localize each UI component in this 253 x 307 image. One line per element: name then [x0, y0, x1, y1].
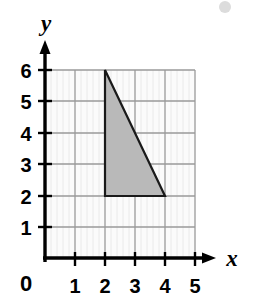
x-axis-arrowhead — [202, 253, 216, 264]
x-tick-label-3: 3 — [129, 275, 140, 297]
y-tick-label-1: 1 — [20, 217, 31, 239]
y-tick-label-2: 2 — [20, 186, 31, 208]
x-tick-label-2: 2 — [99, 275, 110, 297]
x-axis-label: x — [225, 246, 238, 271]
coordinate-plane-figure: 6 5 4 3 2 1 1 2 3 4 5 0 y x — [0, 0, 253, 307]
corner-mark-icon — [219, 1, 231, 13]
y-axis-label: y — [38, 11, 52, 36]
y-tick-label-4: 4 — [20, 123, 32, 145]
x-tick-label-4: 4 — [159, 275, 171, 297]
y-axis-tick-labels: 6 5 4 3 2 1 — [20, 60, 32, 239]
origin-label: 0 — [20, 271, 32, 296]
y-tick-label-6: 6 — [20, 60, 31, 82]
x-tick-label-1: 1 — [69, 275, 80, 297]
x-axis-tick-labels: 1 2 3 4 5 — [69, 275, 200, 297]
x-tick-label-5: 5 — [189, 275, 200, 297]
y-axis-arrowhead — [40, 40, 51, 54]
y-tick-label-5: 5 — [20, 91, 31, 113]
y-tick-label-3: 3 — [20, 154, 31, 176]
